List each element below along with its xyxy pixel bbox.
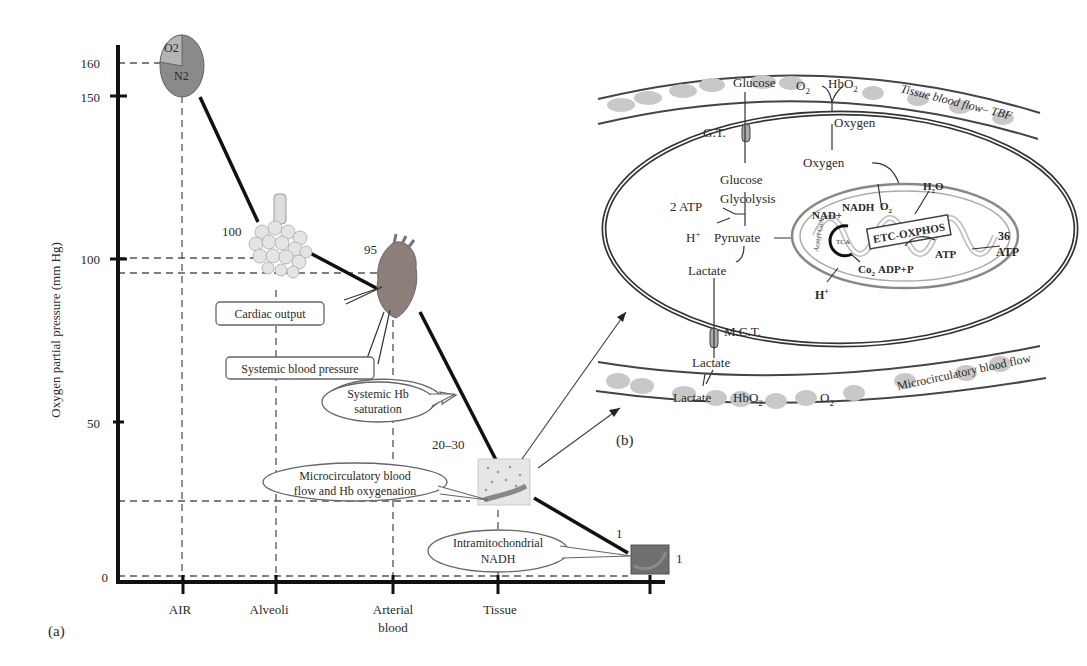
microcirculatory-flow-label: Microcirculatory blood flow xyxy=(896,351,1033,393)
microcirculation-icon xyxy=(478,459,530,505)
bottom-vessel: Lactate HbO2 O2 Microcirculatory blood f… xyxy=(596,346,1046,409)
svg-text:saturation: saturation xyxy=(354,402,401,416)
gt-label: G.T. xyxy=(703,125,726,140)
glucose-transporter-icon xyxy=(742,124,750,142)
x-label-blood: blood xyxy=(378,620,408,635)
x-label-alveoli: Alveoli xyxy=(250,602,289,617)
svg-text:NADH: NADH xyxy=(481,552,516,566)
panel-b-label: (b) xyxy=(616,432,634,449)
lactate-in-label: Lactate xyxy=(688,263,726,278)
svg-text:Intramitochondrial: Intramitochondrial xyxy=(453,536,544,550)
systemic-bp-leader xyxy=(365,310,390,364)
value-tissue: 20–30 xyxy=(432,437,465,452)
x-label-tissue: Tissue xyxy=(483,602,517,617)
lactate-vessel-label: Lactate xyxy=(673,390,711,405)
atp-mito-label: ATP xyxy=(935,248,956,260)
x-label-arterial: Arterial xyxy=(373,602,414,617)
svg-text:Systemic blood pressure: Systemic blood pressure xyxy=(241,362,358,376)
figure-canvas: Oxygen partial pressure (mm Hg) xyxy=(0,0,1087,666)
h-plus-label: H+ xyxy=(686,229,700,245)
panel-b: (b) Glucose O2 HbO2 Tissue blood flow– T… xyxy=(596,75,1076,449)
y-tick-160: 160 xyxy=(81,56,101,71)
y-tick-50: 50 xyxy=(87,416,100,431)
y-tick-150: 150 xyxy=(81,90,101,105)
mitochondrion-photo-icon xyxy=(631,545,669,574)
oxygen-outer-label: Oxygen xyxy=(834,115,876,130)
value-arterial: 95 xyxy=(364,242,377,257)
value-mito-right: 1 xyxy=(676,551,683,566)
atp2-label: 2 ATP xyxy=(670,199,702,214)
atp36-label: ATP xyxy=(996,245,1019,259)
mct-label: M.C.T. xyxy=(724,324,761,339)
zoom-arrows xyxy=(522,312,626,468)
value-mito-left: 1 xyxy=(616,526,623,541)
y-tick-0: 0 xyxy=(102,570,109,585)
value-alveoli: 100 xyxy=(222,224,242,239)
pyruvate-label: Pyruvate xyxy=(714,230,760,245)
callout-cardiac-output: Cardiac output xyxy=(216,302,324,325)
lactate-out-label: Lactate xyxy=(692,355,730,370)
svg-text:Microcirculatory blood: Microcirculatory blood xyxy=(299,469,411,483)
svg-text:Systemic Hb: Systemic Hb xyxy=(347,387,409,401)
svg-text:Cardiac output: Cardiac output xyxy=(235,307,307,321)
panel-a: Oxygen partial pressure (mm Hg) xyxy=(48,35,683,640)
y-axis-title: Oxygen partial pressure (mm Hg) xyxy=(48,242,63,417)
callout-systemic-bp: Systemic blood pressure xyxy=(226,357,374,379)
glucose-label: Glucose xyxy=(720,172,763,187)
glucose-in-vessel: Glucose xyxy=(733,75,776,90)
cardiac-output-leader xyxy=(344,287,382,304)
o2-vessel-label: O2 xyxy=(820,390,834,408)
callout-hb-saturation: Systemic Hb saturation xyxy=(322,379,456,422)
atp36-number: 36 xyxy=(998,229,1010,243)
heart-icon xyxy=(377,234,417,318)
panel-a-label: (a) xyxy=(48,623,65,640)
n2-label: N2 xyxy=(174,69,189,83)
alveoli-icon xyxy=(249,194,312,278)
x-label-air: AIR xyxy=(169,602,192,617)
callout-microcirculation: Microcirculatory blood flow and Hb oxyge… xyxy=(263,463,488,501)
h-plus-mito-label: H+ xyxy=(815,287,829,302)
adp-label: ADP+P xyxy=(878,263,914,275)
guide-lines xyxy=(118,63,628,582)
air-pie-chart-icon: O2 N2 xyxy=(160,35,204,97)
top-vessel: Glucose O2 HbO2 Tissue blood flow– TBF xyxy=(598,75,1040,139)
nadh-label: NADH xyxy=(842,201,875,213)
o2-in-vessel: O2 xyxy=(796,78,810,96)
o2-label: O2 xyxy=(164,41,179,55)
oxygen-inner-label: Oxygen xyxy=(803,155,845,170)
svg-text:flow and Hb oxygenation: flow and Hb oxygenation xyxy=(294,484,416,498)
nad-label: NAD+ xyxy=(812,209,842,221)
y-tick-100: 100 xyxy=(81,252,101,267)
glycolysis-label: Glycolysis xyxy=(720,191,776,206)
tca-label: TCA xyxy=(836,238,850,246)
x-ticks xyxy=(183,575,650,594)
